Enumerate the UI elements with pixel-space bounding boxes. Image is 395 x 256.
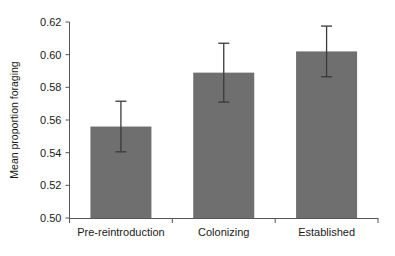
y-axis-tick-label: 0.56 <box>40 114 61 126</box>
y-axis-title: Mean proportion foraging <box>8 61 20 178</box>
y-axis-tick-label: 0.62 <box>40 16 61 28</box>
y-axis-tick-label: 0.60 <box>40 49 61 61</box>
x-axis-category-label: Pre-reintroduction <box>77 226 164 238</box>
x-axis-category-label: Established <box>298 226 355 238</box>
x-axis-category-labels: Pre-reintroductionColonizingEstablished <box>77 226 355 238</box>
y-axis-ticks: 0.500.520.540.560.580.600.62 <box>40 16 69 224</box>
y-axis-tick-label: 0.54 <box>40 147 61 159</box>
chart-canvas: 0.500.520.540.560.580.600.62 Pre-reintro… <box>0 0 395 256</box>
x-axis-category-label: Colonizing <box>198 226 249 238</box>
bar-chart: 0.500.520.540.560.580.600.62 Pre-reintro… <box>0 0 395 256</box>
y-axis-tick-label: 0.50 <box>40 212 61 224</box>
y-axis-tick-label: 0.58 <box>40 81 61 93</box>
y-axis-tick-label: 0.52 <box>40 179 61 191</box>
